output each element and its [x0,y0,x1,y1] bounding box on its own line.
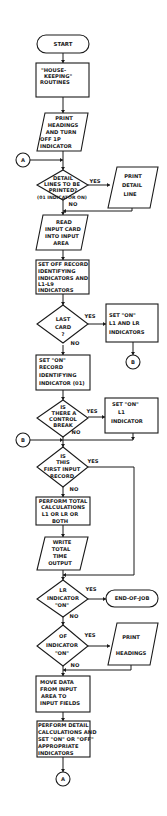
lr-line-1: LR [59,587,66,593]
print-headings-2-line-2: HEADINGS [116,650,147,656]
move-data-line-1: MOVE DATA [40,679,74,685]
end-of-job-label: END-OF-JOB [115,595,150,602]
print-detail-line-3: LINE [123,191,137,197]
move-data-line-3: AREA TO [41,693,67,699]
no-label: NO [69,201,78,207]
of-line-3: "ON" [55,650,69,656]
connector-b-label: B [21,437,25,443]
control-break-line-4: BREAK [53,422,74,428]
housekeeping-process: "HOUSE- KEEPING" ROUTINES [36,63,89,97]
set-on-record-line-1: SET "ON" [39,357,66,363]
of-indicator-decision: OF INDICATOR "ON" YES NO [37,625,96,668]
connector-a-label: A [21,157,25,163]
set-on-record-process: SET "ON" RECORD IDENTIFYING INDICATOR (0… [36,355,90,390]
print-headings-line-3: AND TURN [46,129,77,135]
perform-total-line-4: BOTH [52,518,68,524]
no-label: NO [70,613,79,619]
connector-a-label: A [61,776,65,782]
perform-detail-process: PERFORM DETAIL CALCULATIONS AND SET "ON"… [37,721,97,757]
last-card-line-2: CARD [55,324,72,330]
set-on-l1-lr-line-3: INDICATORS [109,329,145,335]
perform-detail-line-2: CALCULATIONS AND [38,729,97,735]
print-headings-line-2: HEADINGS [48,122,79,128]
set-on-record-line-2: RECORD [39,364,64,370]
move-data-line-2: FROM INPUT [40,686,77,692]
no-label: NO [72,429,81,435]
read-input-line-3: INTO INPUT [45,233,79,239]
first-input-decision: IS THIS FIRST INPUT RECORD YES NO [37,447,99,492]
start-label: START [54,41,73,47]
set-on-l1-line-2: L1 [118,409,125,415]
yes-label: YES [86,458,98,464]
end-of-job-terminal: END-OF-JOB [106,590,158,607]
set-on-l1-line-1: SET "ON" [112,401,139,407]
detail-decision-note: (01 INDICATOR ON) [37,195,87,200]
move-data-process: MOVE DATA FROM INPUT AREA TO INPUT FIELD… [36,676,90,712]
set-off-record-process: SET OFF RECORD IDENTIFYING INDICATORS AN… [36,260,89,294]
flowchart: START "HOUSE- KEEPING" ROUTINES PRINT HE… [0,0,167,816]
write-total-line-4: OUTPUT [48,560,72,566]
perform-detail-line-5: INDICATORS [38,750,74,756]
connector-b-out: B [126,355,140,369]
write-total-line-3: TIME [53,553,68,559]
read-input-line-4: AREA [53,240,69,246]
set-on-l1-process: SET "ON" L1 INDICATOR [105,398,158,433]
write-total-io: WRITE TOTAL TIME OUTPUT [37,537,88,570]
first-input-line-3: FIRST INPUT [44,466,81,472]
first-input-line-4: RECORD [50,473,75,479]
lr-line-2: INDICATOR [47,595,79,601]
yes-label: YES [84,586,96,592]
print-headings-line-4: OFF 1P [40,136,61,142]
last-card-line-3: ? [61,331,64,337]
no-label: NO [71,662,80,668]
write-total-line-2: TOTAL [52,546,71,552]
of-line-1: OF [59,633,67,639]
read-input-line-2: INPUT CARD [45,226,81,232]
read-input-line-1: READ [56,219,73,225]
no-label: NO [71,340,80,346]
print-headings-line-5: INDICATOR [40,143,72,149]
print-headings-2-io: PRINT HEADINGS [108,623,158,665]
set-on-l1-lr-line-1: SET "ON" [109,312,136,318]
connector-a-out: A [56,772,70,786]
perform-total-line-3: L1 OR LR OR [42,511,78,517]
last-card-line-1: LAST [56,316,71,322]
perform-detail-line-4: APPROPRIATE [38,743,79,749]
of-line-2: INDICATOR [46,642,78,648]
lr-line-3: "ON" [55,602,69,608]
no-label: NO [70,486,79,492]
perform-total-line-2: CALCULATIONS [41,504,85,510]
perform-detail-line-1: PERFORM DETAIL [38,722,89,728]
connector-b-label: B [131,359,135,365]
set-on-record-line-3: IDENTIFYING [39,372,76,378]
set-on-l1-line-3: INDICATOR [111,418,143,424]
last-card-decision: LAST CARD ? YES NO [37,305,96,346]
yes-label: YES [83,313,95,319]
move-data-line-4: INPUT FIELDS [40,700,80,706]
write-total-line-1: WRITE [53,539,72,545]
print-headings-2-line-1: PRINT [122,634,140,640]
detail-decision-line-3: PRINTED? [49,187,77,193]
read-input-card-io: READ INPUT CARD INTO INPUT AREA [36,215,88,250]
print-detail-line-io: PRINT DETAIL LINE [108,167,158,208]
connector-b-in: B [16,433,30,447]
yes-label: YES [83,632,95,638]
set-on-l1-lr-process: SET "ON" L1 AND LR INDICATORS [106,304,158,342]
control-break-decision: IS THERE A CONTROL BREAK YES NO [37,400,98,437]
yes-label: YES [85,408,97,414]
housekeeping-line-3: ROUTINES [40,79,70,85]
start-terminal: START [37,35,89,53]
first-input-line-2: THIS [56,459,70,465]
set-off-line-2: IDENTIFYING [38,268,75,274]
set-on-l1-lr-line-2: L1 AND LR [109,320,140,326]
set-on-record-line-4: INDICATOR (01) [39,380,85,386]
lr-indicator-decision: LR INDICATOR "ON" YES NO [37,580,97,619]
set-off-line-5: INDICATORS [38,287,74,293]
print-headings-line-1: PRINT [55,115,73,121]
print-detail-line-1: PRINT [124,173,142,179]
yes-label: YES [88,178,100,184]
print-headings-io: PRINT HEADINGS AND TURN OFF 1P INDICATOR [37,113,88,151]
perform-total-process: PERFORM TOTAL CALCULATIONS L1 OR LR OR B… [36,497,90,525]
perform-detail-line-3: SET "ON" OR "OFF" [38,736,94,742]
connector-a-in: A [16,153,30,167]
